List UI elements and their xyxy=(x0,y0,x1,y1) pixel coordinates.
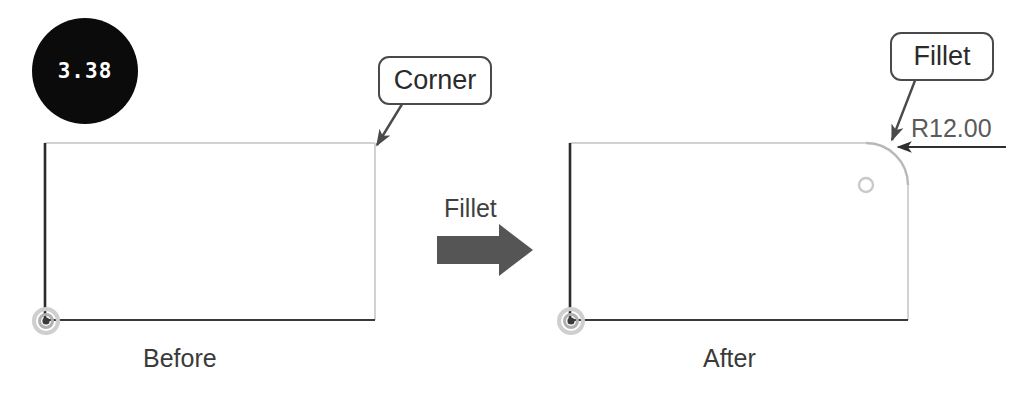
operation-label: Fillet xyxy=(444,194,497,223)
diagram-canvas: 3.38 Corner Fillet Fillet R12.00 Before … xyxy=(0,0,1012,396)
corner-leader-line xyxy=(377,101,404,145)
after-shape-face xyxy=(570,143,908,320)
stage-label-after: After xyxy=(703,344,756,373)
before-shape-face xyxy=(45,143,375,320)
value-badge-text: 3.38 xyxy=(58,59,113,83)
value-badge: 3.38 xyxy=(32,18,138,124)
after-shape xyxy=(570,143,908,320)
stage-label-before: Before xyxy=(143,344,217,373)
callout-corner-label: Corner xyxy=(394,65,477,96)
callout-corner[interactable]: Corner xyxy=(378,56,492,105)
radius-dimension-label: R12.00 xyxy=(911,114,992,143)
before-shape xyxy=(45,143,375,320)
callout-fillet-label: Fillet xyxy=(913,41,970,72)
callout-fillet[interactable]: Fillet xyxy=(890,32,994,81)
fillet-operation-arrow xyxy=(437,224,533,276)
cad-diagram xyxy=(0,0,1012,396)
